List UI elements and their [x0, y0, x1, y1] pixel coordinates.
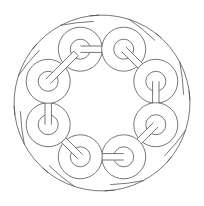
swoosh-tail	[111, 181, 144, 185]
swoosh-tail	[61, 21, 94, 25]
swoosh-tail	[20, 112, 24, 145]
swoosh-tail	[180, 62, 184, 95]
knot-drawing	[0, 0, 204, 206]
celtic-knot-figure	[0, 0, 204, 206]
